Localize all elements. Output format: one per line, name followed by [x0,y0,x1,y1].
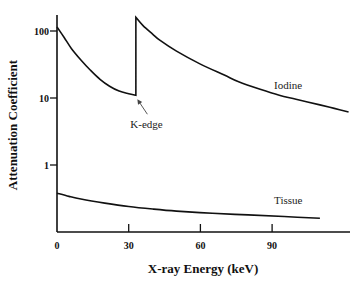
k-edge-label: K-edge [130,118,162,130]
iodine-series-label: Iodine [274,79,302,91]
x-tick-label: 0 [55,240,60,251]
x-ticks: 0306090 [55,224,278,251]
y-axis-title: Attenuation Coefficient [5,59,20,190]
x-axis-title: X-ray Energy (keV) [148,261,258,276]
x-tick-label: 30 [124,240,134,251]
series-line-iodine [57,17,349,112]
y-tick-label: 1 [44,160,49,171]
attenuation-chart: 0306090 110100 K-edge Iodine Tissue X-ra… [0,0,360,293]
y-tick-label: 10 [39,93,49,104]
k-edge-arrow-head-icon [137,99,142,105]
annotations: K-edge Iodine Tissue [130,79,302,206]
y-ticks: 110100 [34,26,57,171]
axes [57,15,350,232]
y-tick-label: 100 [34,26,49,37]
k-edge-arrow [139,102,147,114]
tissue-series-label: Tissue [274,194,302,206]
x-tick-label: 60 [195,240,205,251]
series-group [57,17,349,218]
x-tick-label: 90 [267,240,277,251]
